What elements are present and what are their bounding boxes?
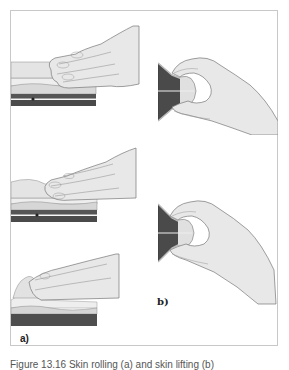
illustration-a-step-3: [11, 252, 141, 332]
panel-b-label: b): [157, 296, 169, 307]
figure-caption: Figure 13.16 Skin rolling (a) and skin l…: [10, 359, 214, 370]
illustration-a-step-1: [11, 22, 141, 122]
illustration-a-step-2: [11, 140, 141, 230]
illustration-b-step-2: [158, 200, 278, 305]
panel-a-label: a): [20, 333, 29, 344]
illustration-b-step-1: [158, 55, 278, 135]
